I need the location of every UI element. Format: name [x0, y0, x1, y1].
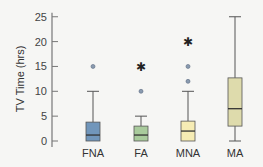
box-fa [134, 126, 148, 141]
y-tick-label: 0 [41, 135, 47, 147]
category-label-fna: FNA [82, 147, 105, 159]
box-fna [86, 122, 100, 141]
category-label-ma: MA [227, 147, 244, 159]
outlier-circle [139, 89, 143, 93]
outlier-circle [186, 79, 190, 83]
y-axis-label: TV Time (hrs) [14, 46, 26, 113]
y-tick-label: 15 [35, 60, 47, 72]
outlier-star: ✱ [136, 60, 146, 74]
y-tick-label: 5 [41, 110, 47, 122]
category-label-mna: MNA [176, 147, 201, 159]
y-tick-label: 25 [35, 11, 47, 23]
category-label-fa: FA [134, 147, 148, 159]
outlier-circle [186, 64, 190, 68]
box-ma [228, 78, 242, 126]
y-tick-label: 20 [35, 36, 47, 48]
box-plot-chart: 0510152025TV Time (hrs)FNA✱FA✱MNAMA [0, 0, 263, 167]
y-tick-label: 10 [35, 85, 47, 97]
outlier-star: ✱ [183, 35, 193, 49]
outlier-circle [91, 64, 95, 68]
